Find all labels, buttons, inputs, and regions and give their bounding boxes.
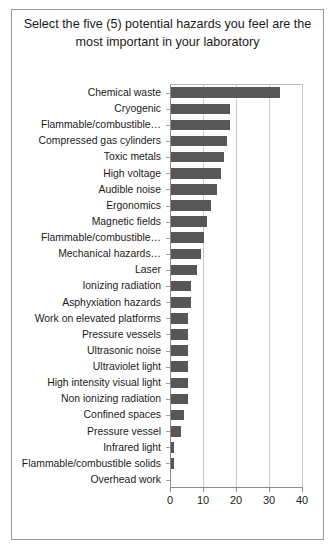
x-tick-label: 20	[230, 494, 242, 506]
y-tick-mark	[166, 286, 170, 287]
category-label: Infrared light	[11, 439, 166, 457]
bar-row: Work on elevated platforms	[18, 310, 318, 328]
bar	[171, 394, 188, 405]
y-tick-mark	[166, 173, 170, 174]
bar-row: Asphyxiation hazards	[18, 294, 318, 312]
bar	[171, 120, 230, 131]
bar	[171, 410, 184, 421]
bar	[171, 136, 227, 147]
category-label: Flammable/combustible solids	[11, 455, 166, 473]
category-label: Overhead work	[11, 471, 166, 489]
y-tick-mark	[166, 93, 170, 94]
x-tick-mark	[170, 487, 171, 492]
bar	[171, 458, 174, 469]
bar-row: Pressure vessel	[18, 423, 318, 441]
y-tick-mark	[166, 238, 170, 239]
y-tick-mark	[166, 254, 170, 255]
y-tick-mark	[166, 222, 170, 223]
y-tick-mark	[166, 463, 170, 464]
bar	[171, 168, 221, 179]
y-tick-mark	[166, 157, 170, 158]
bar	[171, 426, 181, 437]
bar-row: Mechanical hazards…	[18, 245, 318, 263]
bar-row: High intensity visual light	[18, 374, 318, 392]
x-tick-label: 10	[197, 494, 209, 506]
bar-row: Magnetic fields	[18, 213, 318, 231]
y-tick-mark	[166, 189, 170, 190]
bar-row: Ultrasonic noise	[18, 342, 318, 360]
category-label: Flammable/combustible…	[11, 229, 166, 247]
y-tick-mark	[166, 447, 170, 448]
y-tick-mark	[166, 431, 170, 432]
bar-row: High voltage	[18, 165, 318, 183]
bar-row: Flammable/combustible…	[18, 229, 318, 247]
y-tick-mark	[166, 383, 170, 384]
y-tick-mark	[166, 125, 170, 126]
category-label: Laser	[11, 261, 166, 279]
category-label: High voltage	[11, 165, 166, 183]
bar	[171, 442, 174, 453]
category-label: Pressure vessel	[11, 423, 166, 441]
category-label: Ultrasonic noise	[11, 342, 166, 360]
x-tick-mark	[236, 487, 237, 492]
y-tick-mark	[166, 415, 170, 416]
bar	[171, 281, 191, 292]
bar-row: Ergonomics	[18, 197, 318, 215]
bar	[171, 378, 188, 389]
bar-row: Overhead work	[18, 471, 318, 489]
bar-row: Ultraviolet light	[18, 358, 318, 376]
y-tick-mark	[166, 270, 170, 271]
category-label: Cryogenic	[11, 100, 166, 118]
category-label: Audible noise	[11, 181, 166, 199]
plot-area: Chemical wasteCryogenicFlammable/combust…	[18, 84, 318, 524]
y-tick-mark	[166, 206, 170, 207]
x-tick-mark	[203, 487, 204, 492]
bar	[171, 200, 211, 211]
y-tick-mark	[166, 399, 170, 400]
category-label: Flammable/combustible…	[11, 116, 166, 134]
bar	[171, 345, 188, 356]
y-tick-mark	[166, 351, 170, 352]
category-label: Ultraviolet light	[11, 358, 166, 376]
bar	[171, 297, 191, 308]
y-tick-mark	[166, 334, 170, 335]
category-label: High intensity visual light	[11, 374, 166, 392]
bar-row: Flammable/combustible solids	[18, 455, 318, 473]
category-label: Ergonomics	[11, 197, 166, 215]
bar-row: Confined spaces	[18, 406, 318, 424]
bar	[171, 104, 230, 115]
y-tick-mark	[166, 141, 170, 142]
category-label: Work on elevated platforms	[11, 310, 166, 328]
bar-row: Ionizing radiation	[18, 277, 318, 295]
bar-row: Flammable/combustible…	[18, 116, 318, 134]
bar	[171, 184, 217, 195]
category-label: Magnetic fields	[11, 213, 166, 231]
bar-row: Audible noise	[18, 181, 318, 199]
chart-title: Select the five (5) potential hazards yo…	[22, 16, 313, 51]
bar-row: Toxic metals	[18, 148, 318, 166]
category-label: Ionizing radiation	[11, 277, 166, 295]
bar-row: Pressure vessels	[18, 326, 318, 344]
bar-row: Non ionizing radiation	[18, 390, 318, 408]
category-label: Confined spaces	[11, 406, 166, 424]
y-tick-mark	[166, 367, 170, 368]
bar-chart-card: Select the five (5) potential hazards yo…	[0, 0, 335, 549]
bar-row: Infrared light	[18, 439, 318, 457]
bar	[171, 249, 201, 260]
y-tick-mark	[166, 109, 170, 110]
x-tick-mark	[269, 487, 270, 492]
bar-row: Laser	[18, 261, 318, 279]
bar	[171, 216, 207, 227]
bar	[171, 313, 188, 324]
bar	[171, 152, 224, 163]
category-label: Compressed gas cylinders	[11, 132, 166, 150]
category-label: Chemical waste	[11, 84, 166, 102]
x-tick-label: 30	[263, 494, 275, 506]
category-label: Toxic metals	[11, 148, 166, 166]
category-label: Non ionizing radiation	[11, 390, 166, 408]
y-tick-mark	[166, 318, 170, 319]
bar	[171, 87, 280, 98]
bar-row: Cryogenic	[18, 100, 318, 118]
bar	[171, 329, 188, 340]
bar-row: Compressed gas cylinders	[18, 132, 318, 150]
